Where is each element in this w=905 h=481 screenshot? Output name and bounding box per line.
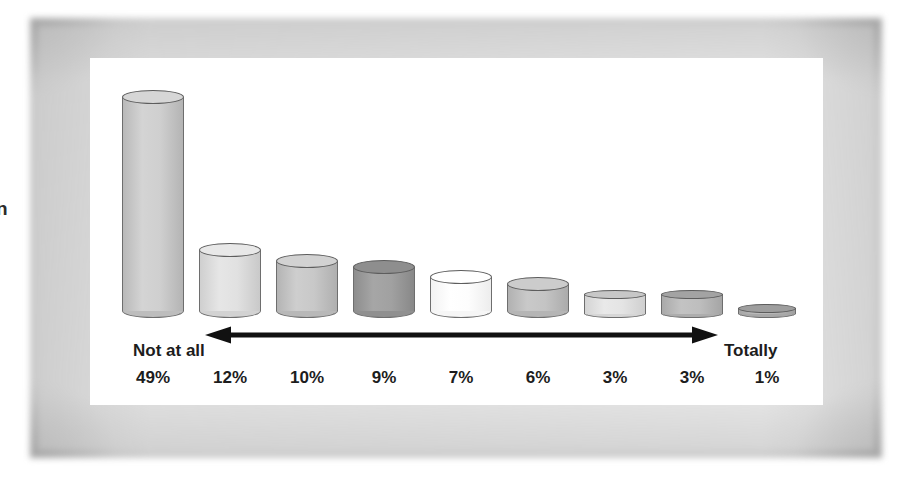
value-label-6: 6% <box>507 368 569 388</box>
value-label-10: 10% <box>276 368 338 388</box>
bar-cylinder-7 <box>430 270 492 318</box>
value-label-7: 7% <box>430 368 492 388</box>
cylinder-top-7 <box>430 270 492 284</box>
value-label-9: 9% <box>353 368 415 388</box>
value-label-3b: 3% <box>661 368 723 388</box>
cylinder-body-49 <box>122 97 184 311</box>
cylinder-top-9 <box>353 260 415 274</box>
cylinder-top-49 <box>122 90 184 104</box>
figure-root: n <box>0 0 905 481</box>
bar-cylinder-1 <box>738 304 796 318</box>
value-label-1: 1% <box>738 368 796 388</box>
cylinder-top-6 <box>507 277 569 291</box>
cylinder-body-12 <box>199 250 261 311</box>
value-label-3a: 3% <box>584 368 646 388</box>
cylinder-top-1 <box>738 304 796 313</box>
cut-off-caption-text: n <box>0 198 8 220</box>
plot-area: Not at all Totally 49% 12% 10% 9% 7% 6% … <box>90 58 823 405</box>
bar-cylinder-10 <box>276 254 338 318</box>
cylinder-top-10 <box>276 254 338 268</box>
bar-cylinder-3b <box>661 290 723 318</box>
value-label-12: 12% <box>199 368 261 388</box>
value-label-49: 49% <box>122 368 184 388</box>
anchor-label-left: Not at all <box>133 341 205 361</box>
cylinder-top-3b <box>661 290 723 299</box>
bar-cylinder-49 <box>122 90 184 318</box>
anchor-label-right: Totally <box>724 341 778 361</box>
bar-cylinder-9 <box>353 260 415 318</box>
bar-cylinder-12 <box>199 243 261 318</box>
double-headed-scale-arrow <box>205 326 718 344</box>
cylinder-top-12 <box>199 243 261 257</box>
chart-panel: Not at all Totally 49% 12% 10% 9% 7% 6% … <box>90 58 823 405</box>
bar-cylinder-6 <box>507 277 569 318</box>
cylinder-top-3a <box>584 290 646 299</box>
bar-cylinder-3a <box>584 290 646 318</box>
cylinder-body-10 <box>276 261 338 311</box>
